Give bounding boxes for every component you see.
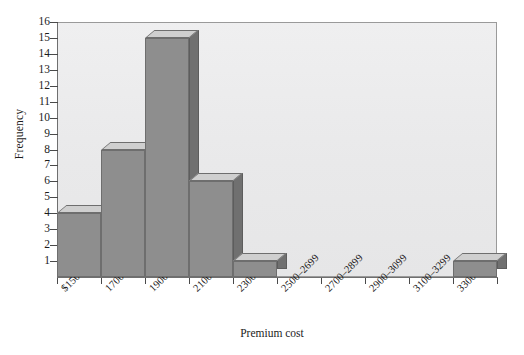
y-tick-label: 9 xyxy=(28,128,50,140)
y-tick-label: 4 xyxy=(28,207,50,219)
y-tick-label: 8 xyxy=(28,144,50,156)
x-tick xyxy=(497,278,498,284)
y-tick xyxy=(50,118,58,119)
y-tick xyxy=(50,165,58,166)
x-tick xyxy=(453,278,454,284)
y-tick-label: 1 xyxy=(28,255,50,267)
x-tick xyxy=(101,278,102,284)
x-axis-title: Premium cost xyxy=(0,327,524,339)
y-tick xyxy=(50,150,58,151)
y-tick xyxy=(50,245,58,246)
y-tick-label: 14 xyxy=(28,48,50,60)
x-tick xyxy=(57,278,58,284)
y-tick-label: 2 xyxy=(28,239,50,251)
y-tick-label: 15 xyxy=(28,32,50,44)
y-tick xyxy=(50,102,58,103)
y-tick-label: 3 xyxy=(28,223,50,235)
x-tick xyxy=(277,278,278,284)
y-axis-title: Frequency xyxy=(13,79,25,189)
x-tick xyxy=(189,278,190,284)
y-tick-label: 10 xyxy=(28,112,50,124)
x-tick xyxy=(409,278,410,284)
y-tick xyxy=(50,22,58,23)
y-tick xyxy=(50,197,58,198)
plot-area xyxy=(57,22,497,277)
y-tick-label: 7 xyxy=(28,159,50,171)
y-tick-label: 5 xyxy=(28,191,50,203)
y-tick xyxy=(50,38,58,39)
x-tick xyxy=(321,278,322,284)
y-tick-label: 16 xyxy=(28,16,50,28)
bar-side-face xyxy=(497,253,507,269)
y-tick-label: 6 xyxy=(28,175,50,187)
x-tick xyxy=(365,278,366,284)
y-tick-label: 13 xyxy=(28,64,50,76)
y-tick xyxy=(50,86,58,87)
histogram-chart: 12345678910111213141516 Frequency $1500–… xyxy=(0,0,524,355)
y-tick xyxy=(50,181,58,182)
y-tick xyxy=(50,134,58,135)
y-tick-label: 12 xyxy=(28,80,50,92)
y-tick xyxy=(50,213,58,214)
y-tick xyxy=(50,70,58,71)
x-tick xyxy=(145,278,146,284)
plot-background xyxy=(58,23,496,276)
y-tick xyxy=(50,229,58,230)
y-tick xyxy=(50,54,58,55)
y-tick xyxy=(50,261,58,262)
y-tick-label: 11 xyxy=(28,96,50,108)
x-tick xyxy=(233,278,234,284)
